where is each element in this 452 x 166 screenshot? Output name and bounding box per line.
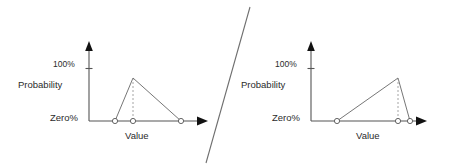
right-marker-mode	[395, 118, 400, 123]
right-ytick-label-zero: Zero%	[272, 112, 300, 123]
left-chart-group	[85, 41, 208, 125]
right-marker-max	[407, 118, 412, 123]
left-marker-mode	[130, 118, 135, 123]
right-chart-group	[307, 41, 427, 125]
left-x-axis-arrowhead-icon	[197, 117, 208, 126]
left-marker-max	[178, 118, 183, 123]
right-marker-min	[334, 118, 339, 123]
left-x-axis-title: Value	[125, 130, 149, 141]
right-x-axis-arrowhead-icon	[416, 117, 427, 126]
right-distribution-curve	[337, 78, 410, 121]
left-ytick-label-zero: Zero%	[50, 112, 78, 123]
left-y-axis-title: Probability	[18, 79, 62, 90]
left-distribution-curve	[115, 78, 181, 121]
left-y-axis-arrowhead-icon	[85, 41, 93, 51]
right-y-axis-title: Probability	[241, 79, 285, 90]
right-ytick-label-100: 100%	[275, 59, 297, 70]
left-ytick-label-100: 100%	[53, 59, 75, 70]
right-y-axis-arrowhead-icon	[307, 41, 315, 51]
right-x-axis-title: Value	[356, 130, 380, 141]
figure-canvas: 100% Probability Zero% Value 100% Probab…	[0, 0, 452, 166]
left-marker-min	[112, 118, 117, 123]
chart-vector-layer	[0, 0, 452, 166]
